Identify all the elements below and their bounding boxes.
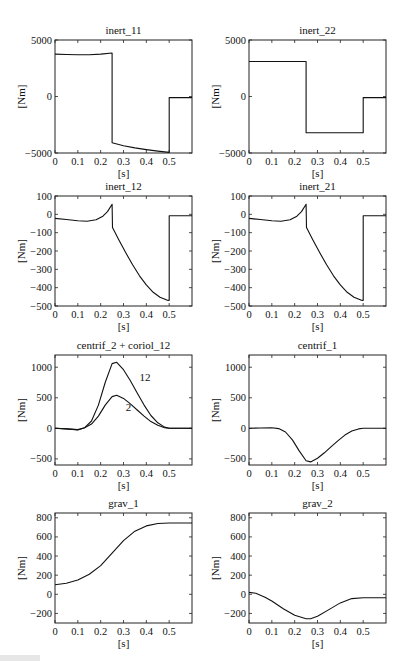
x-tick-label: 0.4 (140, 626, 154, 637)
axes-frame (249, 355, 386, 465)
x-tick-label: 0.3 (311, 156, 324, 167)
subplot-centrif-1: centrif_100.10.20.30.40.5−50005001000[s]… (209, 339, 386, 491)
y-tick-label: 0 (47, 91, 52, 102)
axes-frame (55, 196, 192, 306)
series-line-inert-22 (249, 62, 386, 133)
x-tick-label: 0 (246, 626, 251, 637)
y-tick-label: −500 (224, 453, 246, 464)
y-tick-label: 800 (230, 512, 246, 523)
axes-frame (55, 40, 192, 153)
y-tick-label: −500 (30, 301, 52, 312)
y-tick-label: 500 (36, 392, 52, 403)
y-axis-label: [Nm] (15, 398, 27, 422)
y-tick-label: 0 (47, 423, 52, 434)
figure: inert_1100.10.20.30.40.5−500005000[s][Nm… (0, 0, 407, 665)
y-tick-label: 200 (36, 570, 52, 581)
x-tick-label: 0.3 (311, 309, 324, 320)
y-tick-label: 600 (36, 531, 52, 542)
subplot-grav-1: grav_100.10.20.30.40.5−2000200400600800[… (15, 497, 192, 649)
x-tick-label: 0 (246, 309, 251, 320)
y-tick-label: −200 (224, 608, 246, 619)
x-tick-label: 0.2 (288, 156, 301, 167)
y-tick-label: −400 (224, 282, 246, 293)
y-tick-label: 500 (230, 392, 246, 403)
x-tick-label: 0.4 (334, 156, 348, 167)
x-axis-label: [s] (312, 167, 324, 179)
y-axis-label: [Nm] (209, 398, 221, 422)
x-tick-label: 0 (52, 626, 57, 637)
y-tick-label: −100 (30, 227, 52, 238)
x-tick-label: 0.2 (288, 309, 301, 320)
series-line-grav-1 (55, 523, 192, 585)
y-tick-label: −100 (224, 227, 246, 238)
x-tick-label: 0.4 (334, 626, 348, 637)
series-line-2 (55, 395, 192, 429)
series-line-inert-21 (249, 204, 386, 300)
x-tick-label: 0 (246, 156, 251, 167)
y-axis-label: [Nm] (209, 239, 221, 263)
series-line-centrif-1 (249, 428, 386, 462)
figure-canvas: inert_1100.10.20.30.40.5−500005000[s][Nm… (0, 0, 407, 665)
x-tick-label: 0.5 (357, 309, 370, 320)
x-tick-label: 0 (52, 468, 57, 479)
x-tick-label: 0.1 (265, 309, 278, 320)
x-axis-label: [s] (118, 637, 130, 649)
y-tick-label: 1000 (31, 362, 52, 373)
x-tick-label: 0.3 (117, 468, 130, 479)
axes-frame (55, 355, 192, 465)
y-tick-label: −5000 (219, 148, 246, 159)
y-tick-label: −400 (30, 282, 52, 293)
x-axis-label: [s] (312, 479, 324, 491)
x-axis-label: [s] (118, 320, 130, 332)
x-tick-label: 0.1 (265, 626, 278, 637)
subplot-title: centrif_1 (298, 339, 338, 351)
y-tick-label: 100 (36, 191, 52, 202)
x-tick-label: 0.1 (71, 156, 84, 167)
subplot-grav-2: grav_200.10.20.30.40.5−2000200400600800[… (209, 497, 386, 649)
y-axis-label: [Nm] (209, 85, 221, 109)
y-tick-label: −500 (224, 301, 246, 312)
series-line-inert-12 (55, 204, 192, 300)
y-tick-label: 600 (230, 531, 246, 542)
subplot-title: centrif_2 + coriol_12 (77, 339, 171, 351)
x-tick-label: 0.1 (265, 468, 278, 479)
y-tick-label: 800 (36, 512, 52, 523)
axes-frame (55, 513, 192, 623)
x-tick-label: 0.1 (265, 156, 278, 167)
x-axis-label: [s] (118, 479, 130, 491)
y-tick-label: −5000 (25, 148, 52, 159)
x-axis-label: [s] (118, 167, 130, 179)
y-tick-label: 100 (230, 191, 246, 202)
x-tick-label: 0.2 (94, 468, 107, 479)
x-tick-label: 0.5 (163, 468, 176, 479)
x-tick-label: 0.4 (140, 156, 154, 167)
x-tick-label: 0.1 (71, 309, 84, 320)
subplot-title: inert_11 (105, 24, 141, 36)
x-tick-label: 0.5 (163, 626, 176, 637)
x-tick-label: 0 (52, 156, 57, 167)
y-axis-label: [Nm] (15, 556, 27, 580)
y-tick-label: 400 (230, 551, 246, 562)
subplot-inert-22: inert_2200.10.20.30.40.5−500005000[s][Nm… (209, 24, 386, 179)
subplot-inert-11: inert_1100.10.20.30.40.5−500005000[s][Nm… (15, 24, 192, 179)
y-tick-label: 400 (36, 551, 52, 562)
y-axis-label: [Nm] (15, 85, 27, 109)
subplot-centrif-2-coriol-12: centrif_2 + coriol_1200.10.20.30.40.5−50… (15, 339, 192, 491)
x-tick-label: 0.2 (288, 468, 301, 479)
y-tick-label: −200 (30, 608, 52, 619)
x-tick-label: 0.5 (357, 468, 370, 479)
axes-frame (249, 513, 386, 623)
series-line-grav-2 (249, 592, 386, 618)
x-tick-label: 0.2 (94, 626, 107, 637)
subplot-title: inert_22 (299, 24, 336, 36)
x-axis-label: [s] (312, 637, 324, 649)
x-tick-label: 0.2 (94, 309, 107, 320)
y-tick-label: 0 (241, 423, 246, 434)
x-tick-label: 0.3 (311, 468, 324, 479)
x-tick-label: 0.2 (288, 626, 301, 637)
y-tick-label: 0 (47, 209, 52, 220)
subplot-title: inert_21 (299, 180, 336, 192)
x-tick-label: 0.5 (163, 156, 176, 167)
y-tick-label: −300 (224, 264, 246, 275)
x-tick-label: 0.3 (117, 626, 130, 637)
